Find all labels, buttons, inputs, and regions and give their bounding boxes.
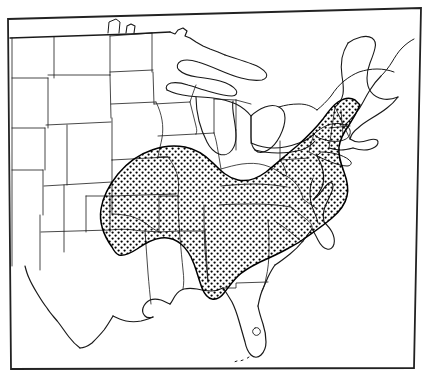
range-map-figure: C.1.1.1. <box>0 0 430 378</box>
map-canvas[interactable] <box>0 0 430 378</box>
